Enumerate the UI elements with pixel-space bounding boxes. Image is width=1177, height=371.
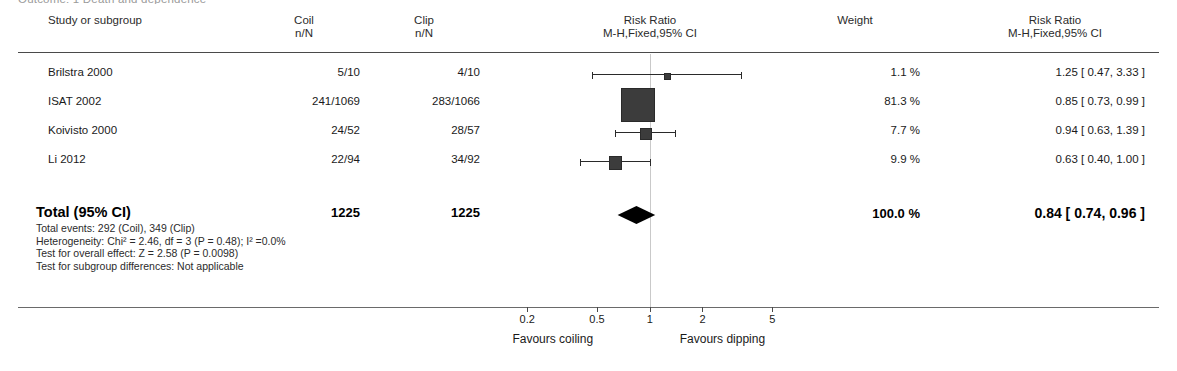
axis-tick (702, 307, 703, 312)
study-name: Li 2012 (48, 153, 258, 165)
clip-events: 34/92 (368, 153, 480, 165)
study-name: ISAT 2002 (48, 95, 258, 107)
clip-events: 283/1066 (368, 95, 480, 107)
effect-estimate-marker (640, 128, 652, 140)
axis-tick (650, 307, 651, 312)
axis-tick-label: 0.5 (589, 313, 604, 325)
summary-diamond (500, 204, 800, 226)
header-coil: Coil n/N (248, 14, 360, 40)
statistic-line-1: Total events: 292 (Coil), 349 (Clip) (36, 222, 286, 235)
effect-estimate-marker (621, 88, 655, 122)
statistic-line-2: Heterogeneity: Chi² = 2.46, df = 3 (P = … (36, 235, 286, 248)
axis-tick-label: 5 (769, 313, 775, 325)
outcome-caption: Outcome: 1 Death and dependence (18, 0, 206, 4)
axis-tick (772, 307, 773, 312)
ci-cap-upper (650, 159, 651, 166)
header-clip-line2: n/N (368, 27, 480, 40)
study-risk-ratio: 0.85 [ 0.73, 0.99 ] (960, 95, 1145, 107)
coil-events: 24/52 (248, 124, 360, 136)
ci-cap-lower (615, 130, 616, 137)
header-plot-line2: M-H,Fixed,95% CI (530, 27, 770, 40)
axis-tick (597, 307, 598, 312)
statistic-line-3: Test for overall effect: Z = 2.58 (P = 0… (36, 247, 286, 260)
axis-baseline (18, 307, 1159, 308)
total-risk-ratio: 0.84 [ 0.74, 0.96 ] (960, 205, 1145, 221)
axis-tick-label: 1 (647, 313, 653, 325)
ci-cap-lower (592, 72, 593, 79)
header-clip-line1: Clip (414, 14, 434, 26)
header-rr-line2: M-H,Fixed,95% CI (960, 27, 1150, 40)
study-name: Koivisto 2000 (48, 124, 258, 136)
effect-estimate-marker (664, 73, 671, 80)
effect-estimate-marker (609, 156, 622, 169)
header-study: Study or subgroup (48, 14, 142, 27)
axis-tick-label: 2 (699, 313, 705, 325)
header-plot-line1: Risk Ratio (624, 14, 676, 26)
favours-right-label: Favours dipping (680, 332, 765, 346)
axis-tick-label: 0.2 (520, 313, 535, 325)
header-risk-ratio: Risk Ratio M-H,Fixed,95% CI (960, 14, 1150, 40)
header-coil-line1: Coil (294, 14, 314, 26)
study-risk-ratio: 0.63 [ 0.40, 1.00 ] (960, 153, 1145, 165)
coil-events: 22/94 (248, 153, 360, 165)
total-coil-n: 1225 (248, 205, 360, 220)
header-divider-rule (18, 52, 1159, 53)
study-risk-ratio: 0.94 [ 0.63, 1.39 ] (960, 124, 1145, 136)
header-weight-label: Weight (837, 14, 873, 26)
study-name: Brilstra 2000 (48, 66, 258, 78)
plot-area (500, 54, 800, 307)
header-weight: Weight (790, 14, 920, 27)
clip-events: 4/10 (368, 66, 480, 78)
study-risk-ratio: 1.25 [ 0.47, 3.33 ] (960, 66, 1145, 78)
clip-events: 28/57 (368, 124, 480, 136)
header-clip: Clip n/N (368, 14, 480, 40)
ci-cap-lower (580, 159, 581, 166)
header-plot: Risk Ratio M-H,Fixed,95% CI (530, 14, 770, 40)
total-label: Total (95% CI) (36, 204, 131, 220)
coil-events: 241/1069 (248, 95, 360, 107)
ci-cap-upper (675, 130, 676, 137)
statistic-line-4: Test for subgroup differences: Not appli… (36, 260, 286, 273)
axis-tick (527, 307, 528, 312)
header-rr-line1: Risk Ratio (1029, 14, 1081, 26)
statistics-block: Total events: 292 (Coil), 349 (Clip)Hete… (36, 222, 286, 272)
header-study-label: Study or subgroup (48, 14, 142, 26)
coil-events: 5/10 (248, 66, 360, 78)
ci-cap-upper (741, 72, 742, 79)
header-coil-line2: n/N (248, 27, 360, 40)
total-clip-n: 1225 (368, 205, 480, 220)
favours-left-label: Favours coiling (512, 332, 593, 346)
forest-plot-figure: Outcome: 1 Death and dependence Study or… (0, 0, 1177, 371)
